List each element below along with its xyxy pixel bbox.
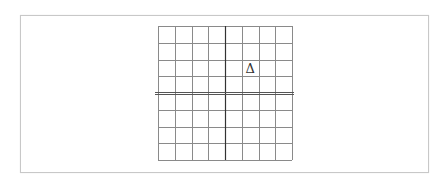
coordinate-grid: Δ [0,0,446,185]
delta-marker: Δ [245,61,254,76]
